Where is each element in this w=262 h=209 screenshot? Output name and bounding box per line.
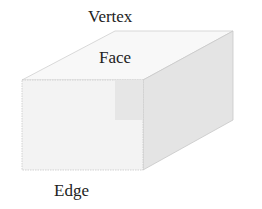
label-edge: Edge	[54, 182, 89, 199]
hidden-back-region	[115, 80, 143, 120]
label-vertex: Vertex	[88, 8, 132, 25]
rectangular-prism-icon	[0, 0, 262, 209]
prism-diagram: Vertex Face Edge	[0, 0, 262, 209]
label-face: Face	[99, 49, 131, 66]
